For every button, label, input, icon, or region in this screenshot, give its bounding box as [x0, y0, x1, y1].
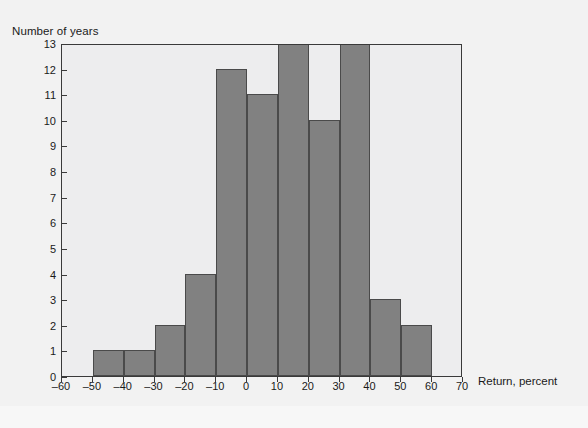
x-axis-title: Return, percent [478, 375, 557, 387]
y-tick-label: 8 [34, 167, 56, 178]
x-tick-label: –60 [52, 381, 70, 392]
histogram-bar [155, 325, 186, 376]
histogram-figure: Number of years 012345678910111213 –60–5… [0, 0, 588, 428]
histogram-bar [278, 45, 309, 376]
y-tick-mark [61, 300, 67, 301]
x-tick-mark [246, 377, 247, 382]
x-tick-label: 20 [302, 381, 314, 392]
plot-frame [61, 44, 462, 377]
y-tick-mark [61, 44, 67, 45]
y-tick-mark [61, 249, 67, 250]
histogram-bar [185, 274, 216, 376]
x-tick-mark [400, 377, 401, 382]
y-tick-mark [61, 275, 67, 276]
x-tick-label: –40 [114, 381, 132, 392]
plot-area [62, 45, 461, 376]
x-tick-label: 60 [425, 381, 437, 392]
y-tick-mark [61, 351, 67, 352]
x-tick-mark [123, 377, 124, 382]
y-tick-mark [61, 70, 67, 71]
y-tick-label: 3 [34, 295, 56, 306]
y-tick-label: 1 [34, 346, 56, 357]
x-tick-label: –50 [83, 381, 101, 392]
x-tick-mark [184, 377, 185, 382]
x-tick-label: 40 [363, 381, 375, 392]
x-tick-label: –10 [206, 381, 224, 392]
y-tick-label: 5 [34, 243, 56, 254]
histogram-bar [93, 350, 124, 376]
x-tick-mark [308, 377, 309, 382]
x-tick-mark [369, 377, 370, 382]
x-tick-label: 50 [394, 381, 406, 392]
histogram-bar [401, 325, 432, 376]
x-tick-mark [277, 377, 278, 382]
histogram-bar [340, 45, 371, 376]
y-axis-tick-labels: 012345678910111213 [26, 0, 56, 428]
histogram-bar [370, 299, 401, 376]
histogram-bar [247, 94, 278, 376]
y-tick-label: 7 [34, 192, 56, 203]
y-tick-label: 10 [34, 115, 56, 126]
x-tick-label: –20 [175, 381, 193, 392]
x-tick-mark [462, 377, 463, 382]
y-tick-label: 13 [34, 39, 56, 50]
x-tick-label: –30 [144, 381, 162, 392]
x-tick-label: 70 [456, 381, 468, 392]
x-tick-mark [431, 377, 432, 382]
x-tick-label: 10 [271, 381, 283, 392]
y-tick-label: 6 [34, 218, 56, 229]
y-tick-mark [61, 95, 67, 96]
x-tick-mark [215, 377, 216, 382]
y-tick-mark [61, 326, 67, 327]
x-tick-mark [154, 377, 155, 382]
y-tick-mark [61, 146, 67, 147]
x-tick-label: 0 [243, 381, 249, 392]
x-tick-label: 30 [332, 381, 344, 392]
histogram-bar [124, 350, 155, 376]
y-tick-mark [61, 198, 67, 199]
y-tick-mark [61, 121, 67, 122]
y-tick-mark [61, 223, 67, 224]
y-tick-label: 11 [34, 90, 56, 101]
x-tick-mark [61, 377, 62, 382]
x-tick-mark [339, 377, 340, 382]
histogram-bar [216, 69, 247, 376]
x-tick-mark [92, 377, 93, 382]
y-tick-label: 2 [34, 320, 56, 331]
histogram-bar [309, 120, 340, 376]
y-tick-mark [61, 172, 67, 173]
y-tick-label: 9 [34, 141, 56, 152]
y-tick-label: 12 [34, 64, 56, 75]
y-tick-label: 4 [34, 269, 56, 280]
